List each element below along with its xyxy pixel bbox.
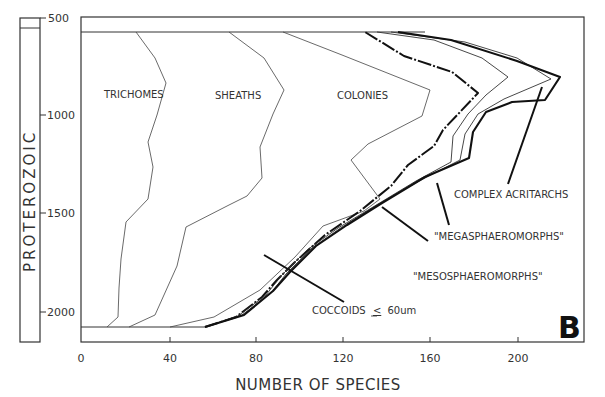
x-axis-title: NUMBER OF SPECIES bbox=[235, 376, 401, 394]
label-coccoids: COCCOIDS < 60um bbox=[312, 305, 416, 316]
label-sheaths: SHEATHS bbox=[215, 90, 261, 101]
colonies-curve bbox=[170, 32, 430, 327]
era-bar: PROTEROZOIC bbox=[20, 18, 40, 342]
megasphaeromorphs-leader bbox=[437, 183, 449, 225]
x-tick-160: 160 bbox=[420, 352, 441, 365]
panel-label: B bbox=[558, 310, 581, 345]
trichomes-curve bbox=[107, 32, 166, 327]
coccoids-symbol: < bbox=[373, 305, 381, 316]
x-tick-120: 120 bbox=[333, 352, 354, 365]
coccoids-name: COCCOIDS bbox=[312, 305, 366, 316]
y-axis: 500 1000 1500 2000 bbox=[40, 12, 75, 319]
x-tick-40: 40 bbox=[163, 352, 177, 365]
x-tick-200: 200 bbox=[508, 352, 529, 365]
coccoids-leader bbox=[264, 255, 344, 302]
label-colonies: COLONIES bbox=[337, 90, 388, 101]
coccoids-curve bbox=[205, 32, 478, 327]
x-tick-80: 80 bbox=[249, 352, 263, 365]
y-tick-1500: 1500 bbox=[47, 207, 75, 220]
curves bbox=[107, 32, 560, 327]
label-megasphaeromorphs: "MEGASPHAEROMORPHS" bbox=[434, 231, 564, 242]
y-tick-2000: 2000 bbox=[47, 306, 75, 319]
label-complex-acritarchs: COMPLEX ACRITARCHS bbox=[454, 189, 568, 200]
annotations: TRICHOMES SHEATHS COLONIES COMPLEX ACRIT… bbox=[103, 89, 581, 345]
label-trichomes: TRICHOMES bbox=[103, 89, 164, 100]
x-tick-0: 0 bbox=[78, 352, 85, 365]
y-tick-1000: 1000 bbox=[47, 109, 75, 122]
mesosphaeromorphs-curve bbox=[205, 32, 508, 327]
sheaths-curve bbox=[129, 32, 284, 327]
diversity-chart: PROTEROZOIC 500 1000 1500 2000 0 40 80 1… bbox=[0, 0, 605, 397]
mesosphaeromorphs-leader bbox=[382, 207, 428, 241]
label-mesosphaeromorphs: "MESOSPHAEROMORPHS" bbox=[413, 271, 543, 282]
era-label: PROTEROZOIC bbox=[21, 130, 39, 272]
megasphaeromorphs-curve bbox=[205, 32, 551, 327]
y-tick-500: 500 bbox=[48, 12, 69, 25]
x-axis: 0 40 80 120 160 200 NUMBER OF SPECIES bbox=[78, 337, 529, 394]
coccoids-size: 60um bbox=[387, 305, 416, 316]
